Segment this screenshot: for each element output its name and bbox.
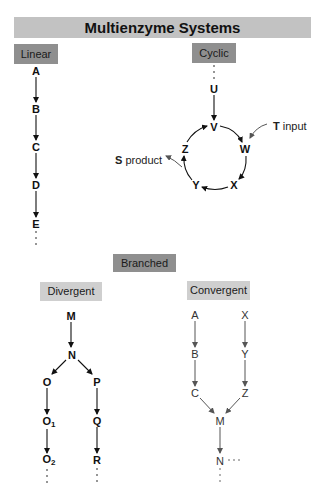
arrow-y-z — [184, 156, 192, 180]
continuation-dots — [35, 65, 215, 483]
arrow-t-input — [250, 124, 267, 138]
arrow-n-p — [78, 360, 92, 374]
arrow-s-product — [166, 156, 182, 167]
arrow-n-o — [52, 360, 66, 374]
arrow-x-y — [202, 187, 228, 190]
arrow-z-m — [226, 398, 240, 413]
arrow-c-m — [200, 398, 214, 413]
arrow-z-v — [187, 126, 207, 142]
arrow-w-x — [239, 156, 246, 179]
arrows-layer — [0, 0, 322, 490]
arrow-v-w — [220, 126, 242, 142]
